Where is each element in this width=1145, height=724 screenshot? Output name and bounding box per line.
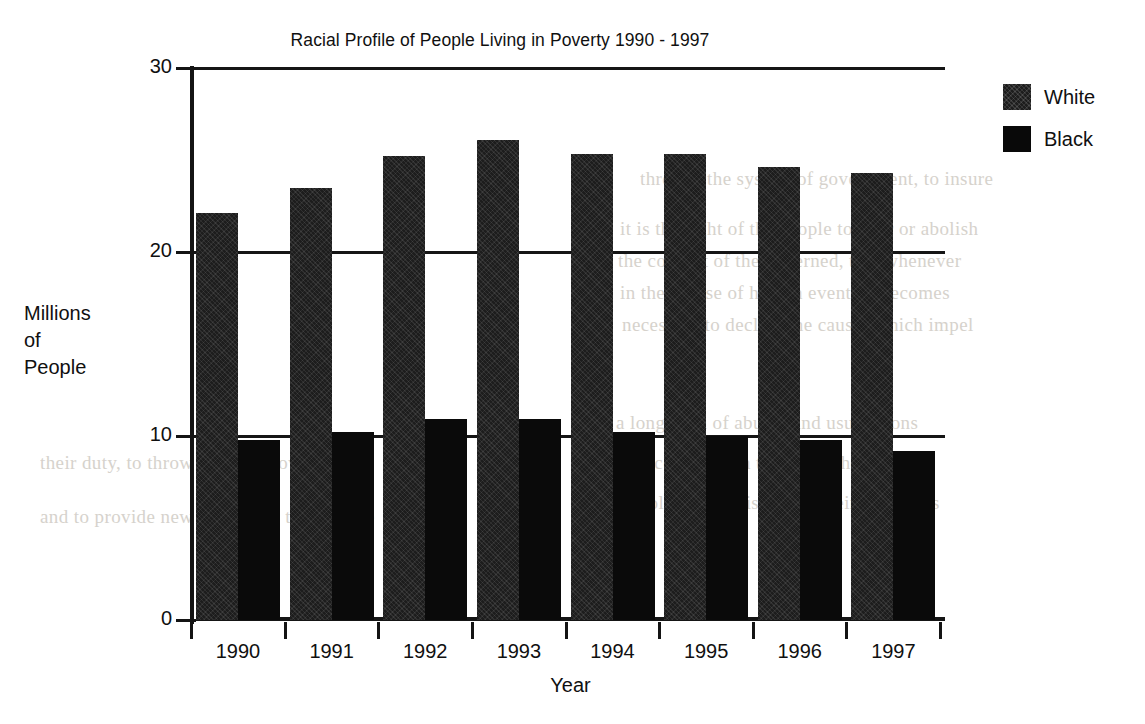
x-tick-label-1991: 1991 bbox=[280, 640, 384, 663]
x-tick-mark-1992 bbox=[377, 622, 380, 639]
legend: White Black bbox=[1003, 84, 1143, 168]
bar-black-1990 bbox=[238, 440, 280, 620]
x-tick-mark-1994 bbox=[565, 622, 568, 639]
bar-black-1991 bbox=[332, 432, 374, 620]
x-tick-label-1993: 1993 bbox=[467, 640, 571, 663]
bar-black-1992 bbox=[425, 419, 467, 620]
legend-swatch-black bbox=[1003, 126, 1031, 152]
x-tick-label-1994: 1994 bbox=[561, 640, 665, 663]
bar-white-1997 bbox=[851, 173, 893, 620]
y-axis-title-line: of bbox=[24, 327, 154, 354]
bar-white-1996 bbox=[758, 167, 800, 620]
x-axis-title: Year bbox=[196, 674, 945, 697]
y-axis-line bbox=[190, 66, 194, 624]
bar-white-1990 bbox=[196, 213, 238, 620]
x-tick-mark-1997 bbox=[845, 622, 848, 639]
x-tick-mark-1995 bbox=[658, 622, 661, 639]
bar-black-1996 bbox=[800, 440, 842, 620]
y-axis-title-line: People bbox=[24, 354, 154, 381]
x-tick-mark-end bbox=[939, 622, 942, 639]
bar-black-1995 bbox=[706, 436, 748, 620]
bar-black-1997 bbox=[893, 451, 935, 620]
x-tick-mark-1996 bbox=[752, 622, 755, 639]
gridline-30 bbox=[196, 67, 945, 70]
x-tick-label-1992: 1992 bbox=[373, 640, 477, 663]
y-tick-label-20: 20 bbox=[126, 239, 172, 262]
bar-black-1994 bbox=[613, 432, 655, 620]
bar-white-1993 bbox=[477, 140, 519, 620]
bar-white-1992 bbox=[383, 156, 425, 620]
y-tick-mark-0 bbox=[176, 619, 196, 622]
legend-item-white[interactable]: White bbox=[1003, 84, 1143, 110]
legend-swatch-white bbox=[1003, 84, 1031, 110]
x-tick-label-1997: 1997 bbox=[841, 640, 945, 663]
y-tick-label-30: 30 bbox=[126, 55, 172, 78]
x-tick-mark-1993 bbox=[471, 622, 474, 639]
bar-white-1991 bbox=[290, 188, 332, 620]
legend-item-black[interactable]: Black bbox=[1003, 126, 1143, 152]
bar-chart: Racial Profile of People Living in Pover… bbox=[0, 0, 1145, 724]
y-tick-mark-20 bbox=[176, 251, 196, 254]
bar-white-1994 bbox=[571, 154, 613, 620]
bar-white-1995 bbox=[664, 154, 706, 620]
x-tick-label-1990: 1990 bbox=[186, 640, 290, 663]
legend-label-black: Black bbox=[1044, 128, 1093, 151]
y-tick-label-0: 0 bbox=[126, 607, 172, 630]
bar-black-1993 bbox=[519, 419, 561, 620]
y-axis-title: MillionsofPeople bbox=[24, 300, 154, 381]
y-tick-label-10: 10 bbox=[126, 423, 172, 446]
y-axis-title-line: Millions bbox=[24, 300, 154, 327]
x-tick-mark-1990 bbox=[190, 622, 193, 639]
plot-area bbox=[196, 68, 945, 620]
x-tick-label-1996: 1996 bbox=[748, 640, 852, 663]
x-tick-mark-1991 bbox=[284, 622, 287, 639]
x-tick-label-1995: 1995 bbox=[654, 640, 758, 663]
y-tick-mark-30 bbox=[176, 67, 196, 70]
legend-label-white: White bbox=[1044, 86, 1095, 109]
y-tick-mark-10 bbox=[176, 435, 196, 438]
